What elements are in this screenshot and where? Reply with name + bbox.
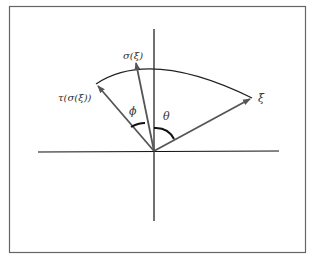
label-theta: θ	[163, 110, 170, 123]
label-xi: ξ	[258, 92, 265, 105]
rotation-diagram: σ(ξ) τ(σ(ξ)) ξ ϕ θ	[0, 0, 313, 257]
angle-mark-theta	[154, 128, 174, 139]
x-axis	[38, 151, 279, 152]
label-tau-sigma-xi: τ(σ(ξ))	[58, 92, 92, 103]
angle-mark-phi	[131, 123, 145, 127]
vector-sigma-xi	[136, 63, 154, 151]
sector-arc	[96, 69, 252, 98]
label-phi: ϕ	[129, 105, 137, 118]
label-sigma-xi: σ(ξ)	[123, 50, 143, 61]
vector-tau-sigma-xi	[98, 86, 154, 151]
vector-xi	[154, 99, 250, 151]
frame-border	[10, 7, 306, 253]
